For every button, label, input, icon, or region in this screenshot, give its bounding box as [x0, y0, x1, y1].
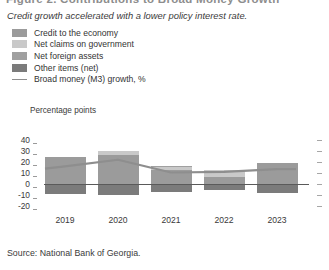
- line-path: [65, 160, 277, 173]
- chart-plot-area: 403020100-10-20 20192020202120222023: [0, 112, 329, 230]
- legend-item-label: Credit to the economy: [34, 28, 118, 38]
- legend-item-label: Net claims on government: [34, 39, 134, 49]
- x-axis-tick-label: 2019: [41, 215, 89, 225]
- line-path-lead: [45, 166, 65, 168]
- legend-item-net-claims: Net claims on government: [12, 39, 146, 51]
- figure-subtitle: Credit growth accelerated with a lower p…: [7, 10, 322, 21]
- legend-item-label: Broad money (M3) growth, %: [34, 74, 146, 84]
- figure-title: Figure 2. Contributions to Broad Money G…: [6, 0, 326, 5]
- legend-item-credit: Credit to the economy: [12, 27, 146, 39]
- broad-money-line-series: [0, 112, 329, 230]
- x-axis-tick-label: 2023: [253, 215, 301, 225]
- legend-item-label: Other items (net): [34, 63, 98, 73]
- swatch-icon: [12, 52, 27, 60]
- swatch-icon: [12, 64, 27, 72]
- x-axis-tick-label: 2021: [147, 215, 195, 225]
- line-icon: [12, 75, 27, 83]
- legend-item-broad-money: Broad money (M3) growth, %: [12, 73, 146, 85]
- swatch-icon: [12, 40, 27, 48]
- x-axis-tick-label: 2022: [200, 215, 248, 225]
- legend-item-other-items: Other items (net): [12, 62, 146, 74]
- swatch-icon: [12, 29, 27, 37]
- chart-legend: Credit to the economy Net claims on gove…: [12, 27, 146, 85]
- legend-item-label: Net foreign assets: [34, 51, 103, 61]
- x-axis-tick-label: 2020: [94, 215, 142, 225]
- legend-item-net-foreign-assets: Net foreign assets: [12, 50, 146, 62]
- source-note: Source: National Bank of Georgia.: [7, 248, 141, 258]
